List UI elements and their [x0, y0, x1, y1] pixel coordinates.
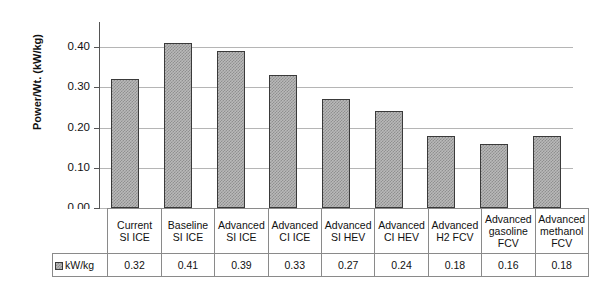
- table-cell-value: 0.33: [268, 254, 321, 277]
- legend-spacer-cell: [53, 209, 108, 254]
- table-row-categories: CurrentSI ICEBaselineSI ICEAdvancedSI IC…: [53, 209, 589, 254]
- table-cell-value: 0.32: [108, 254, 161, 277]
- category-line: Advanced: [536, 213, 588, 225]
- chart-figure: Power/Wt. (kW/kg) 0.400.300.200.100.00 C…: [0, 0, 604, 290]
- category-line: Baseline: [162, 219, 214, 231]
- table-cell-value: 0.18: [428, 254, 481, 277]
- category-line: FCV: [482, 237, 534, 249]
- y-axis-title: Power/Wt. (kW/kg): [31, 2, 43, 162]
- category-line: CI HEV: [375, 231, 427, 243]
- table-cell-category: AdvancedgasolineFCV: [482, 209, 535, 254]
- y-axis-tick: [94, 47, 100, 48]
- table-cell-category: AdvancedmethanolFCV: [535, 209, 588, 254]
- table-cell-category: AdvancedH2 FCV: [428, 209, 481, 254]
- bar: [322, 99, 350, 208]
- series-swatch-icon: [55, 262, 63, 270]
- category-line: SI ICE: [162, 231, 214, 243]
- category-line: Advanced: [429, 219, 481, 231]
- y-axis-tick-label: 0.30: [46, 80, 90, 92]
- bar: [480, 144, 508, 208]
- bar: [375, 111, 403, 208]
- category-line: SI HEV: [322, 231, 374, 243]
- plot-area: 0.400.300.200.100.00: [99, 27, 573, 208]
- bar: [533, 136, 561, 208]
- table-cell-value: 0.39: [215, 254, 268, 277]
- y-axis-tick: [94, 168, 100, 169]
- table-cell-category: AdvancedCI HEV: [375, 209, 428, 254]
- category-line: methanol: [536, 225, 588, 237]
- table-row-values: kW/kg 0.320.410.390.330.270.240.180.160.…: [53, 254, 589, 277]
- category-line: Advanced: [215, 219, 267, 231]
- legend-cell: kW/kg: [53, 254, 108, 277]
- y-axis-tick: [94, 87, 100, 88]
- table-cell-value: 0.16: [482, 254, 535, 277]
- table-cell-category: AdvancedCI ICE: [268, 209, 321, 254]
- category-line: Advanced: [375, 219, 427, 231]
- legend-label: kW/kg: [65, 259, 94, 271]
- table-cell-category: BaselineSI ICE: [161, 209, 214, 254]
- category-line: SI ICE: [215, 231, 267, 243]
- table-cell-value: 0.18: [535, 254, 588, 277]
- table-cell-value: 0.24: [375, 254, 428, 277]
- table-cell-category: AdvancedSI HEV: [321, 209, 374, 254]
- category-line: CI ICE: [269, 231, 321, 243]
- bar: [427, 136, 455, 208]
- category-line: Advanced: [322, 219, 374, 231]
- category-line: FCV: [536, 237, 588, 249]
- category-line: gasoline: [482, 225, 534, 237]
- category-line: SI ICE: [108, 231, 160, 243]
- y-axis-tick-label: 0.20: [46, 121, 90, 133]
- category-line: H2 FCV: [429, 231, 481, 243]
- bar: [164, 43, 192, 208]
- bar: [111, 79, 139, 208]
- category-line: Advanced: [269, 219, 321, 231]
- bar: [269, 75, 297, 208]
- table-cell-category: AdvancedSI ICE: [215, 209, 268, 254]
- table-cell-category: CurrentSI ICE: [108, 209, 161, 254]
- y-axis-tick: [94, 128, 100, 129]
- y-axis-tick-label: 0.10: [46, 161, 90, 173]
- category-line: Advanced: [482, 213, 534, 225]
- bar: [217, 51, 245, 208]
- category-line: Current: [108, 219, 160, 231]
- y-axis-tick-label: 0.40: [46, 40, 90, 52]
- table-cell-value: 0.41: [161, 254, 214, 277]
- data-table: CurrentSI ICEBaselineSI ICEAdvancedSI IC…: [52, 208, 589, 277]
- table-cell-value: 0.27: [321, 254, 374, 277]
